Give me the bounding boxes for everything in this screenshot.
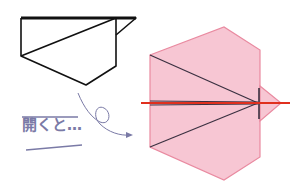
transition-arrow-icon bbox=[78, 93, 133, 138]
origami-diagram bbox=[0, 0, 308, 188]
caption-text: 開くと… bbox=[22, 118, 82, 133]
unfolded-shape bbox=[141, 27, 290, 180]
folded-shape bbox=[21, 18, 136, 85]
